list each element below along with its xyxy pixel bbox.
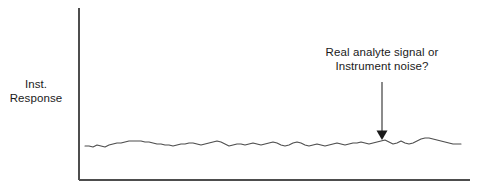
plot-canvas bbox=[0, 0, 481, 194]
y-axis-label-line1: Inst. bbox=[25, 78, 47, 90]
annotation-text-line2: Instrument noise? bbox=[296, 60, 468, 74]
annotation-arrow-group bbox=[377, 82, 388, 140]
y-axis-label-line2: Response bbox=[0, 92, 72, 106]
annotation-text: Real analyte signal or Instrument noise? bbox=[296, 46, 468, 73]
axes-group bbox=[79, 8, 470, 180]
signal-trace-line bbox=[85, 138, 461, 147]
y-axis-label: Inst. Response bbox=[0, 78, 72, 105]
annotation-arrow-head bbox=[377, 131, 388, 141]
noise-baseline-figure: Inst. Response Real analyte signal or In… bbox=[0, 0, 481, 194]
signal-trace-group bbox=[85, 138, 461, 147]
annotation-text-line1: Real analyte signal or bbox=[326, 46, 439, 58]
